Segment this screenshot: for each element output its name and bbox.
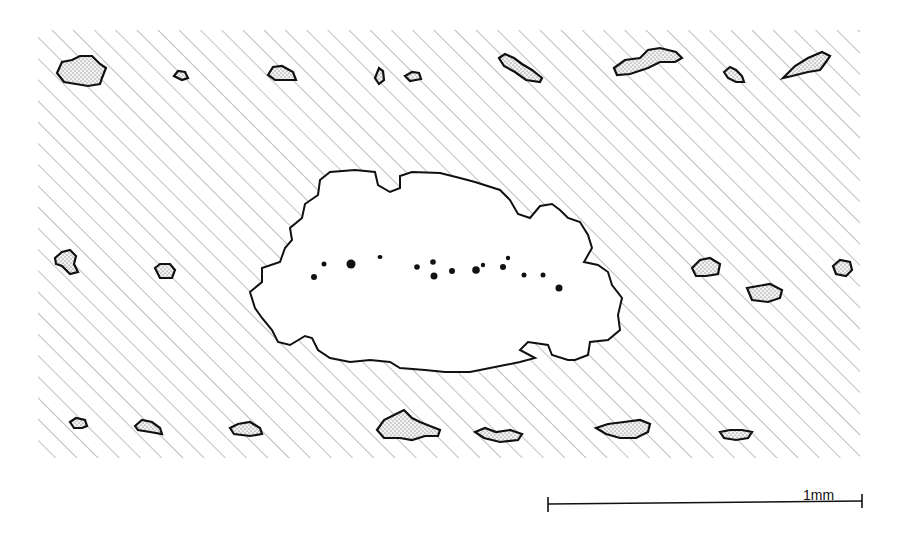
micrograph-figure <box>0 0 897 538</box>
scale-bar-label: 1mm <box>803 487 834 503</box>
